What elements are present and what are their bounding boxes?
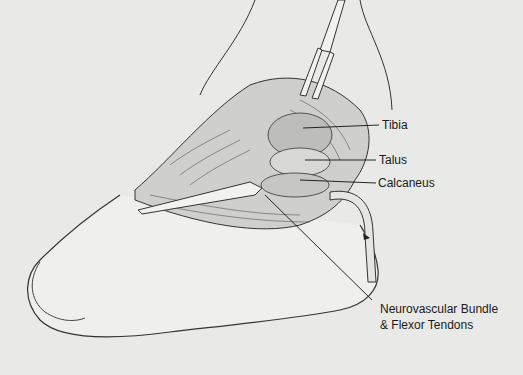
- label-talus: Talus: [379, 153, 407, 167]
- label-calcaneus: Calcaneus: [378, 176, 435, 190]
- talus-shape: [270, 148, 330, 176]
- label-tibia: Tibia: [382, 118, 408, 132]
- label-neurovascular-line1: Neurovascular Bundle: [380, 302, 498, 316]
- label-neurovascular-line2: & Flexor Tendons: [380, 318, 473, 332]
- calcaneus-shape: [261, 173, 329, 197]
